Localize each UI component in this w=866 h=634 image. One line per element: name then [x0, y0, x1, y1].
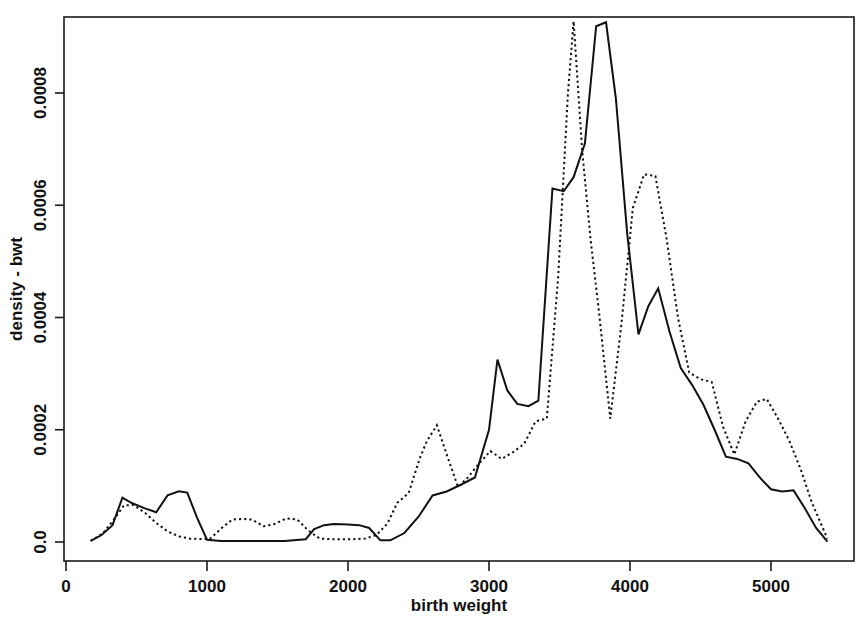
chart-canvas: 0.00.00020.00040.00060.0008 010002000300… — [0, 0, 866, 634]
x-tick-label: 5000 — [752, 577, 790, 596]
x-tick-label: 1000 — [188, 577, 226, 596]
x-tick-label: 3000 — [470, 577, 508, 596]
x-tick-label: 0 — [61, 577, 70, 596]
x-axis-title: birth weight — [411, 596, 508, 615]
y-tick-label: 0.0002 — [31, 404, 50, 456]
x-tick-label: 2000 — [329, 577, 367, 596]
y-axis-title: density - bwt — [7, 237, 26, 341]
y-tick-label: 0.0 — [31, 530, 50, 554]
density-plot-figure: 0.00.00020.00040.00060.0008 010002000300… — [0, 0, 866, 634]
figure-background — [0, 0, 866, 634]
x-tick-label: 4000 — [611, 577, 649, 596]
y-tick-label: 0.0006 — [31, 179, 50, 231]
y-tick-label: 0.0004 — [31, 291, 50, 344]
y-tick-label: 0.0008 — [31, 67, 50, 119]
